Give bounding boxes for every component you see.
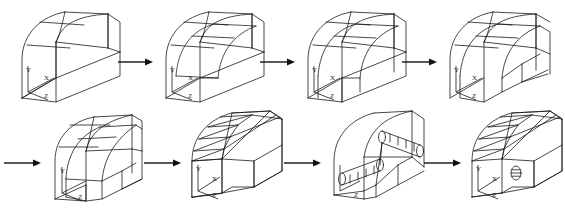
axis-label-x: X	[492, 175, 497, 183]
axis-label-z: Z	[212, 191, 216, 199]
arrow-right-icon	[0, 105, 45, 215]
axis-label-z: Z	[330, 92, 334, 100]
flow-arrow-5	[140, 105, 185, 215]
arrow-right-icon	[140, 105, 185, 215]
axis-label-x: X	[330, 74, 335, 82]
arrow-right-icon	[420, 105, 465, 215]
axis-label-y: Y	[454, 66, 459, 74]
axis-label-x: X	[44, 74, 49, 82]
axis-label-x: X	[212, 175, 217, 183]
axis-label-y: Y	[476, 165, 481, 173]
flow-arrow-3	[396, 0, 441, 110]
axis-label-y: Y	[60, 167, 65, 175]
axis-label-z: Z	[492, 191, 496, 199]
axis-label-z: Z	[472, 92, 476, 100]
axis-label-x: X	[472, 74, 477, 82]
axis-label-y: Y	[170, 66, 175, 74]
flow-arrow-1	[112, 0, 157, 110]
step-4-step-notch-cut: Y X Z	[436, 0, 561, 110]
flow-arrow-2	[254, 0, 299, 110]
arrow-right-icon	[396, 0, 441, 110]
arrow-right-icon	[254, 0, 299, 110]
arrow-right-icon	[280, 105, 325, 215]
axis-label-y: Y	[196, 165, 201, 173]
sequence-row-top: Y X Z	[0, 0, 565, 110]
axis-label-z: Z	[44, 92, 48, 100]
axis-label-y: Y	[312, 66, 317, 74]
step-8-drawing: Y X Z	[460, 105, 565, 215]
axis-label-z: Z	[188, 92, 192, 100]
flow-arrow-7	[420, 105, 465, 215]
flow-arrow-6	[280, 105, 325, 215]
step-4-drawing: Y X Z	[436, 0, 561, 110]
axis-label-x: X	[188, 74, 193, 82]
step-8-final-solid-model: Y X Z	[460, 105, 565, 215]
arrow-right-icon	[112, 0, 157, 110]
figure-canvas: Y X Z	[0, 0, 565, 219]
axis-label-z: Z	[354, 191, 358, 199]
axis-label-z: Z	[78, 193, 82, 201]
cylinder-bore-2	[379, 131, 424, 157]
sequence-row-bottom: Y Z	[0, 105, 565, 219]
flow-arrow-4	[0, 105, 45, 215]
axis-label-y: Y	[26, 66, 31, 74]
